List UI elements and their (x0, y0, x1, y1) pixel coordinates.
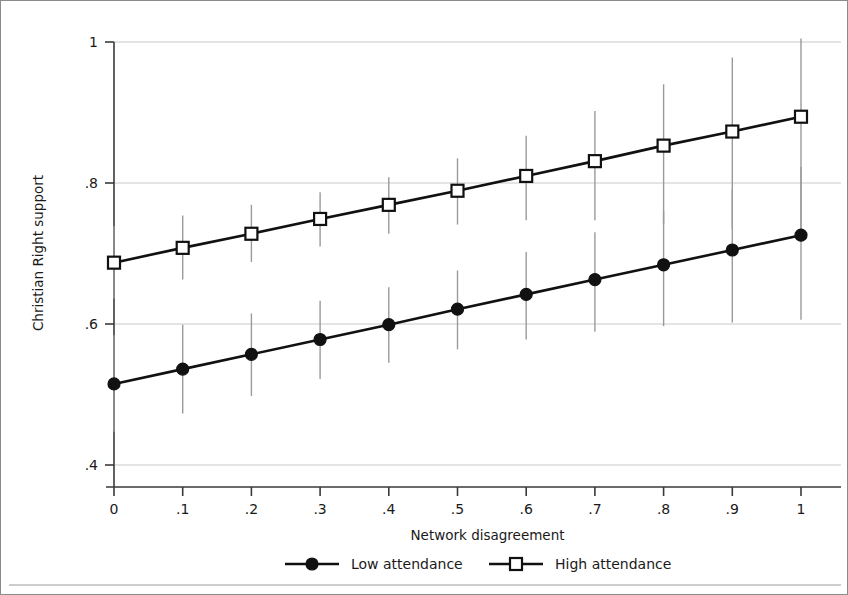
data-point-marker (314, 334, 326, 346)
y-tick-label-0: .4 (85, 457, 98, 473)
data-point-marker (245, 348, 257, 360)
legend-marker-filled-circle-icon (306, 558, 318, 570)
x-tick-label-8: .8 (657, 501, 670, 517)
data-point-marker (108, 257, 120, 269)
legend-label-1: High attendance (555, 556, 671, 572)
data-point-marker (452, 303, 464, 315)
data-point-marker (108, 378, 120, 390)
x-tick-label-6: .6 (520, 501, 533, 517)
series-low-attendance (108, 229, 807, 390)
data-point-marker (795, 229, 807, 241)
y-tick-label-3: 1 (89, 34, 98, 50)
x-tick-labels-group: 0.1.2.3.4.5.6.7.8.91 (110, 501, 806, 517)
data-point-marker (452, 185, 464, 197)
x-tick-label-9: .9 (726, 501, 739, 517)
x-tick-label-7: .7 (588, 501, 601, 517)
x-tick-label-1: .1 (176, 501, 189, 517)
x-axis-title: Network disagreement (410, 527, 564, 543)
data-point-marker (520, 288, 532, 300)
error-bars-high-attendance (114, 38, 801, 298)
data-point-marker (726, 244, 738, 256)
chart-canvas: .4.6.81 0.1.2.3.4.5.6.7.8.91 Christian R… (1, 1, 848, 595)
data-point-marker (795, 111, 807, 123)
x-tick-label-5: .5 (451, 501, 464, 517)
y-tick-labels-group: .4.6.81 (85, 34, 98, 473)
data-point-marker (726, 126, 738, 138)
series-high-attendance (108, 111, 807, 269)
y-axis-title: Christian Right support (30, 175, 46, 331)
figure-container: .4.6.81 0.1.2.3.4.5.6.7.8.91 Christian R… (0, 0, 848, 595)
data-point-marker (658, 259, 670, 271)
data-point-marker (383, 199, 395, 211)
legend-marker-open-square-icon (510, 558, 522, 570)
data-point-marker (589, 274, 601, 286)
data-point-marker (314, 213, 326, 225)
data-point-marker (383, 319, 395, 331)
data-point-marker (177, 363, 189, 375)
data-point-marker (520, 170, 532, 182)
data-point-marker (245, 228, 257, 240)
tick-marks-group (105, 42, 801, 496)
y-tick-label-1: .6 (85, 316, 98, 332)
x-tick-label-3: .3 (313, 501, 326, 517)
y-tick-label-2: .8 (85, 175, 98, 191)
legend: Low attendanceHigh attendance (285, 556, 671, 572)
x-tick-label-2: .2 (245, 501, 258, 517)
legend-label-0: Low attendance (351, 556, 463, 572)
x-tick-label-4: .4 (382, 501, 395, 517)
axes-lines-group (106, 42, 841, 487)
data-point-marker (658, 140, 670, 152)
x-tick-label-0: 0 (110, 501, 119, 517)
data-point-marker (177, 242, 189, 254)
x-tick-label-10: 1 (797, 501, 806, 517)
data-point-marker (589, 155, 601, 167)
